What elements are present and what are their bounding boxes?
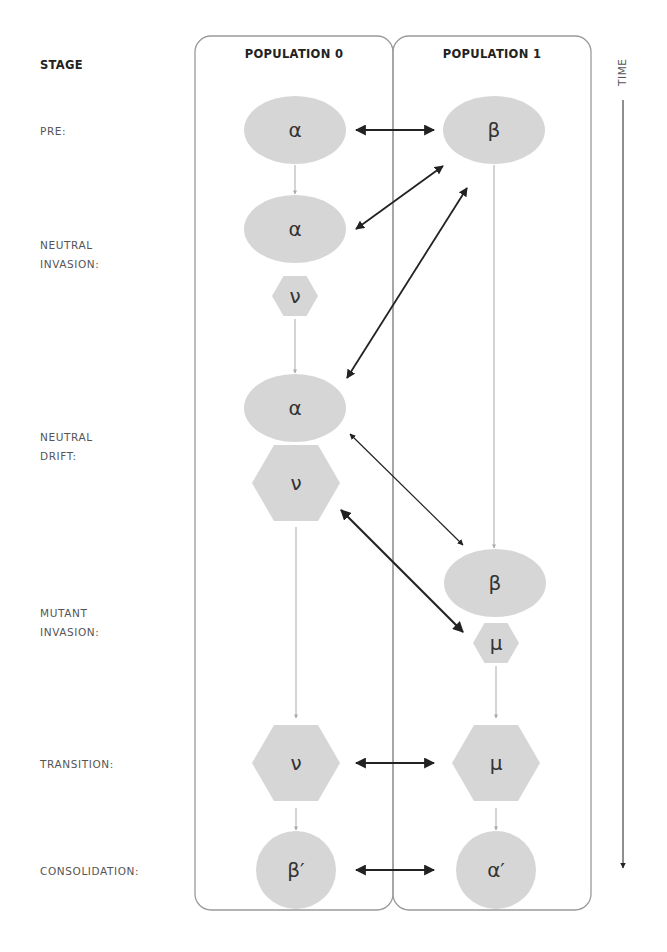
node-tr-mu: μ	[452, 725, 540, 801]
bidirectional-arrow	[341, 510, 463, 632]
node-pre-beta: β	[443, 96, 545, 164]
node-symbol: μ	[490, 751, 503, 775]
node-symbol: ν	[289, 284, 300, 308]
node-mi-mu: μ	[473, 623, 519, 663]
bidirectional-arrow	[350, 434, 463, 545]
node-symbol: α′	[487, 858, 505, 882]
node-symbol: α	[288, 396, 301, 420]
bidirectional-arrow	[356, 166, 443, 229]
node-symbol: ν	[290, 751, 301, 775]
bidirectional-arrow	[347, 188, 467, 378]
node-symbol: α	[288, 217, 301, 241]
interaction-arrows	[341, 130, 467, 870]
node-pre-alpha: α	[244, 96, 346, 164]
node-mi-beta: β	[444, 549, 546, 617]
evolution-diagram: STAGE POPULATION 0 POPULATION 1 TIME PRE…	[0, 0, 667, 952]
node-symbol: β′	[287, 858, 305, 882]
node-ni-nu: ν	[272, 276, 318, 316]
population-boxes	[195, 36, 591, 910]
node-co-beta-prime: β′	[256, 831, 336, 909]
node-symbol: β	[489, 571, 502, 595]
node-nd-alpha: α	[244, 374, 346, 442]
node-co-alpha-prime: α′	[456, 831, 536, 909]
node-symbol: μ	[490, 631, 503, 655]
nodes: αβανανβμνμβ′α′	[244, 96, 546, 909]
node-symbol: ν	[290, 471, 301, 495]
node-tr-nu: ν	[252, 725, 340, 801]
node-ni-alpha: α	[244, 195, 346, 263]
diagram-canvas: αβανανβμνμβ′α′	[0, 0, 667, 952]
node-nd-nu: ν	[252, 445, 340, 521]
node-symbol: β	[488, 118, 501, 142]
node-symbol: α	[288, 118, 301, 142]
